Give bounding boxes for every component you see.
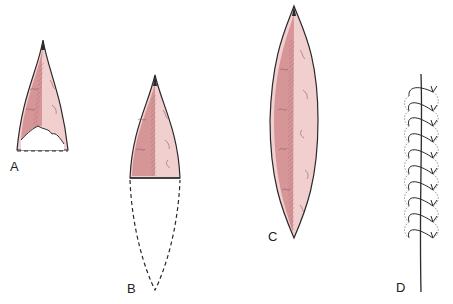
label-c: C bbox=[268, 229, 277, 244]
panel-c bbox=[270, 6, 318, 238]
label-d: D bbox=[396, 280, 405, 295]
label-b: B bbox=[127, 281, 136, 296]
panel-b bbox=[130, 75, 180, 290]
surgical-wound-diagram: A B C bbox=[0, 0, 453, 304]
panel-d bbox=[404, 74, 438, 292]
panel-a bbox=[17, 40, 68, 151]
label-a: A bbox=[10, 159, 19, 174]
